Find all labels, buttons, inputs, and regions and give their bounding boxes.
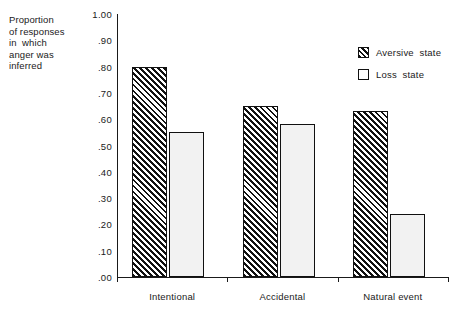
y-tick-label: .60 (98, 114, 112, 125)
y-tick-label: .50 (98, 140, 112, 151)
legend-label: Loss state (376, 69, 424, 80)
x-tick-mark (448, 277, 449, 282)
x-axis-line (117, 277, 448, 278)
bar-aversive-state-intentional (132, 67, 167, 277)
y-tick-label: .20 (98, 219, 112, 230)
legend-swatch-hatched-icon (358, 47, 369, 58)
y-tick-label: .10 (98, 245, 112, 256)
x-tick-mark (338, 277, 339, 282)
x-category-label: Intentional (149, 291, 195, 302)
chart-legend: Aversive state Loss state (358, 41, 441, 85)
bar-chart-figure: Proportion of responses in which anger w… (0, 0, 458, 311)
x-tick-mark (227, 277, 228, 282)
legend-item-aversive-state: Aversive state (358, 41, 441, 63)
y-tick-label: .80 (98, 61, 112, 72)
legend-item-loss-state: Loss state (358, 63, 441, 85)
legend-label: Aversive state (376, 47, 441, 58)
y-axis-label: Proportion of responses in which anger w… (9, 14, 91, 72)
bar-loss-state-accidental (280, 124, 315, 277)
y-axis-label-line: of responses (9, 26, 91, 38)
y-tick-label: 1.00 (92, 9, 112, 20)
bar-aversive-state-accidental (243, 106, 278, 277)
y-tick-label: .40 (98, 166, 112, 177)
y-axis-line (117, 14, 118, 277)
y-tick-label: .70 (98, 87, 112, 98)
x-category-label: Accidental (260, 291, 306, 302)
x-tick-mark (117, 277, 118, 282)
y-tick-label: .30 (98, 193, 112, 204)
y-tick-label: .90 (98, 35, 112, 46)
y-tick-label: .00 (98, 272, 112, 283)
x-category-label: Natural event (363, 291, 422, 302)
y-axis-label-line: anger was (9, 49, 91, 61)
y-axis-label-line: inferred (9, 60, 91, 72)
bar-aversive-state-natural-event (353, 111, 388, 277)
legend-swatch-plain-icon (358, 69, 369, 80)
bar-loss-state-natural-event (390, 214, 425, 277)
y-axis-label-line: Proportion (9, 14, 91, 26)
y-axis-label-line: in which (9, 37, 91, 49)
bar-loss-state-intentional (169, 132, 204, 277)
